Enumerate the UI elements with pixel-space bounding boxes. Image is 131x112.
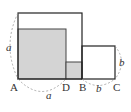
small-gray-rect	[66, 62, 82, 79]
label-a-bottom: a	[46, 89, 52, 101]
gray-square	[18, 29, 66, 79]
point-A: A	[10, 81, 18, 93]
geometry-diagram: a a b b A D B C	[0, 0, 131, 112]
label-b-bottom: b	[96, 82, 102, 94]
point-D: D	[62, 81, 70, 93]
right-square	[82, 46, 115, 79]
point-B: B	[79, 81, 86, 93]
label-a-left: a	[6, 41, 12, 53]
arc-a-bottom	[18, 79, 66, 92]
label-b-right: b	[119, 56, 125, 68]
point-C: C	[113, 81, 120, 93]
